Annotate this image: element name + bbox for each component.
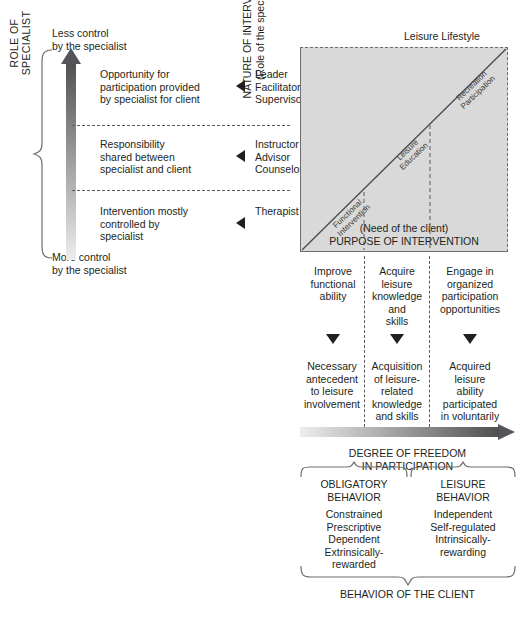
down-triangle-icon-1 [326,334,340,344]
column-bottom-text-3: Acquiredleisureabilityparticipatedin vol… [431,360,509,423]
column-divider-1 [364,256,365,432]
left-triangle-icon [236,150,245,162]
leisure-behavior-title: LEISUREBEHAVIOR [408,478,518,503]
down-triangle-icon-2 [390,334,404,344]
left-triangle-icon [236,217,245,229]
nature-of-intervention-label: NATURE OF INTERVENTION(Role of the speci… [241,0,266,128]
behavior-of-client-label: BEHAVIOR OF THE CLIENT [300,588,515,600]
degree-of-freedom-gradient-arrow [300,424,515,440]
column-top-text-2: Acquireleisureknowledgeandskills [366,265,428,328]
leisure-behavior-traits: IndependentSelf-regulatedIntrinsically-r… [408,508,518,558]
role-of-specialist-label: ROLE OF SPECIALIST [8,0,32,98]
leisure-behavior-brace [410,462,516,478]
diagram-canvas: Less controlby the specialist More contr… [0,0,526,619]
obligatory-behavior-traits: ConstrainedPrescriptiveDependentExtrinsi… [298,508,410,571]
role-row-description: Responsibilityshared betweenspecialist a… [100,138,250,176]
obligatory-behavior-title: OBLIGATORYBEHAVIOR [298,478,410,503]
column-bottom-text-2: Acquisitionof leisure-relatedknowledgean… [366,360,428,423]
obligatory-behavior-brace [300,462,408,478]
role-row-description: Opportunity forparticipation providedby … [100,68,250,106]
column-top-text-1: Improvefunctionalability [302,265,364,303]
degree-of-control-gradient-arrow [60,48,82,260]
behavior-of-client-brace [300,566,516,586]
down-triangle-icon-3 [463,334,477,344]
column-divider-2 [429,256,430,432]
column-top-text-3: Engage inorganizedparticipationopportuni… [431,265,509,315]
role-row-description: Intervention mostlycontrolled byspeciali… [100,205,250,243]
column-bottom-text-1: Necessaryantecedentto leisureinvolvement [300,360,364,410]
purpose-of-intervention-label: (Need of the client)PURPOSE OF INTERVENT… [300,222,508,247]
divider-row-2 [72,190,290,191]
leisure-lifestyle-label: Leisure Lifestyle [404,30,524,42]
